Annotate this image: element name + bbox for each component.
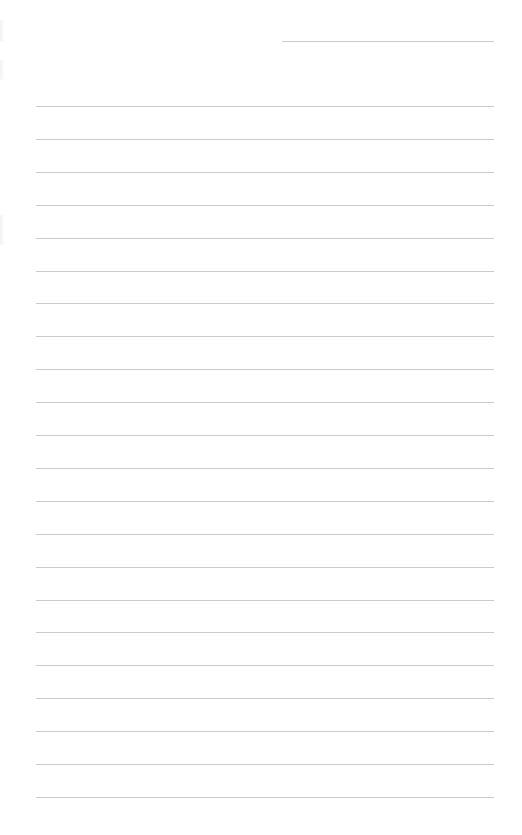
binding-mark — [0, 60, 5, 80]
ruled-line — [36, 665, 494, 666]
lined-paper-page — [0, 0, 522, 835]
ruled-line — [36, 534, 494, 535]
ruled-line — [36, 402, 494, 403]
header-line — [282, 41, 494, 42]
ruled-line — [36, 369, 494, 370]
binding-mark — [0, 20, 5, 42]
ruled-line — [36, 632, 494, 633]
ruled-line — [36, 205, 494, 206]
ruled-line — [36, 238, 494, 239]
ruled-line — [36, 501, 494, 502]
ruled-line — [36, 106, 494, 107]
binding-mark — [0, 215, 5, 245]
ruled-line — [36, 764, 494, 765]
ruled-line — [36, 567, 494, 568]
ruled-line — [36, 139, 494, 140]
ruled-line — [36, 336, 494, 337]
ruled-line — [36, 797, 494, 798]
ruled-line — [36, 731, 494, 732]
ruled-line — [36, 468, 494, 469]
ruled-line — [36, 172, 494, 173]
ruled-line — [36, 435, 494, 436]
ruled-line — [36, 271, 494, 272]
ruled-line — [36, 303, 494, 304]
ruled-line — [36, 698, 494, 699]
ruled-line — [36, 600, 494, 601]
